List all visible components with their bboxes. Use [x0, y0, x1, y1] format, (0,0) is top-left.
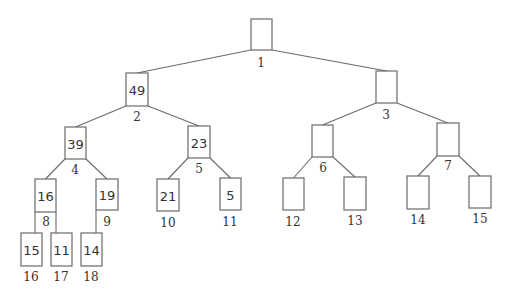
node-index-label: 15	[472, 212, 487, 226]
node-value: 49	[129, 83, 146, 98]
node-index-label: 5	[195, 162, 203, 176]
tree-edge-1-3	[272, 50, 387, 71]
node-index-label: 18	[83, 270, 98, 284]
tree-edge-6-13	[333, 157, 355, 177]
tree-edge-3-6	[323, 103, 377, 125]
tree-node-13: 13	[344, 177, 366, 228]
tree-node-10: 2110	[157, 179, 179, 230]
tree-edge-4-9	[86, 159, 107, 179]
tree-edge-7-14	[418, 156, 437, 176]
tree-node-5: 235	[188, 126, 210, 176]
node-box	[312, 125, 333, 157]
node-index-label: 9	[103, 215, 111, 229]
node-value: 21	[160, 189, 177, 204]
node-value: 15	[23, 243, 40, 258]
node-box	[469, 176, 491, 208]
tree-edge-5-11	[210, 158, 231, 178]
node-index-label: 13	[347, 214, 362, 228]
node-value: 11	[53, 243, 70, 258]
tree-edge-7-15	[459, 156, 480, 176]
node-value: 5	[226, 188, 234, 203]
tree-node-3: 3	[376, 71, 397, 122]
node-value: 39	[67, 137, 84, 152]
tree-node-4: 394	[65, 127, 86, 177]
node-box	[251, 19, 272, 50]
node-index-label: 10	[160, 216, 175, 230]
node-index-label: 6	[319, 161, 327, 175]
tree-node-7: 7	[437, 123, 459, 173]
tree-node-11: 511	[220, 178, 241, 229]
tree-node-14: 14	[407, 176, 429, 227]
node-index-label: 14	[410, 213, 426, 227]
node-box	[437, 123, 459, 156]
tree-node-16: 1516	[21, 233, 42, 284]
tree-node-12: 12	[283, 178, 304, 229]
node-box	[283, 178, 304, 210]
tree-edge-1-2	[137, 50, 251, 73]
node-index-label: 4	[71, 163, 79, 177]
node-box	[407, 176, 429, 209]
node-value: 16	[37, 189, 54, 204]
node-index-label: 17	[53, 270, 68, 284]
node-index-label: 1	[257, 56, 265, 70]
node-value: 19	[99, 188, 116, 203]
node-box	[376, 71, 397, 103]
tree-node-8: 168	[35, 179, 56, 229]
tree-edge-4-8	[46, 159, 66, 179]
tree-edge-2-4	[76, 106, 127, 127]
tree-node-1: 1	[251, 19, 272, 70]
tree-node-17: 1117	[51, 233, 72, 284]
node-box	[344, 177, 366, 210]
tree-node-9: 199	[96, 179, 118, 229]
tree-edge-3-7	[397, 103, 448, 123]
node-index-label: 7	[444, 159, 452, 173]
tree-node-2: 492	[126, 73, 148, 124]
node-index-label: 11	[222, 215, 237, 229]
tree-nodes: 1492339423567168199211051112131415151611…	[21, 19, 491, 284]
node-index-label: 2	[133, 110, 141, 124]
tree-edge-2-5	[148, 106, 199, 126]
heap-tree-diagram: 1492339423567168199211051112131415151611…	[0, 0, 509, 299]
tree-node-15: 15	[469, 176, 491, 226]
node-index-label: 3	[382, 108, 390, 122]
node-value: 14	[83, 243, 100, 258]
node-index-label: 16	[23, 270, 38, 284]
tree-node-18: 1418	[81, 233, 102, 284]
node-index-label: 12	[285, 215, 300, 229]
tree-edge-6-12	[294, 157, 313, 178]
node-value: 23	[191, 136, 208, 151]
tree-edge-5-10	[168, 158, 188, 179]
tree-node-6: 6	[312, 125, 333, 175]
node-index-label: 8	[42, 215, 50, 229]
